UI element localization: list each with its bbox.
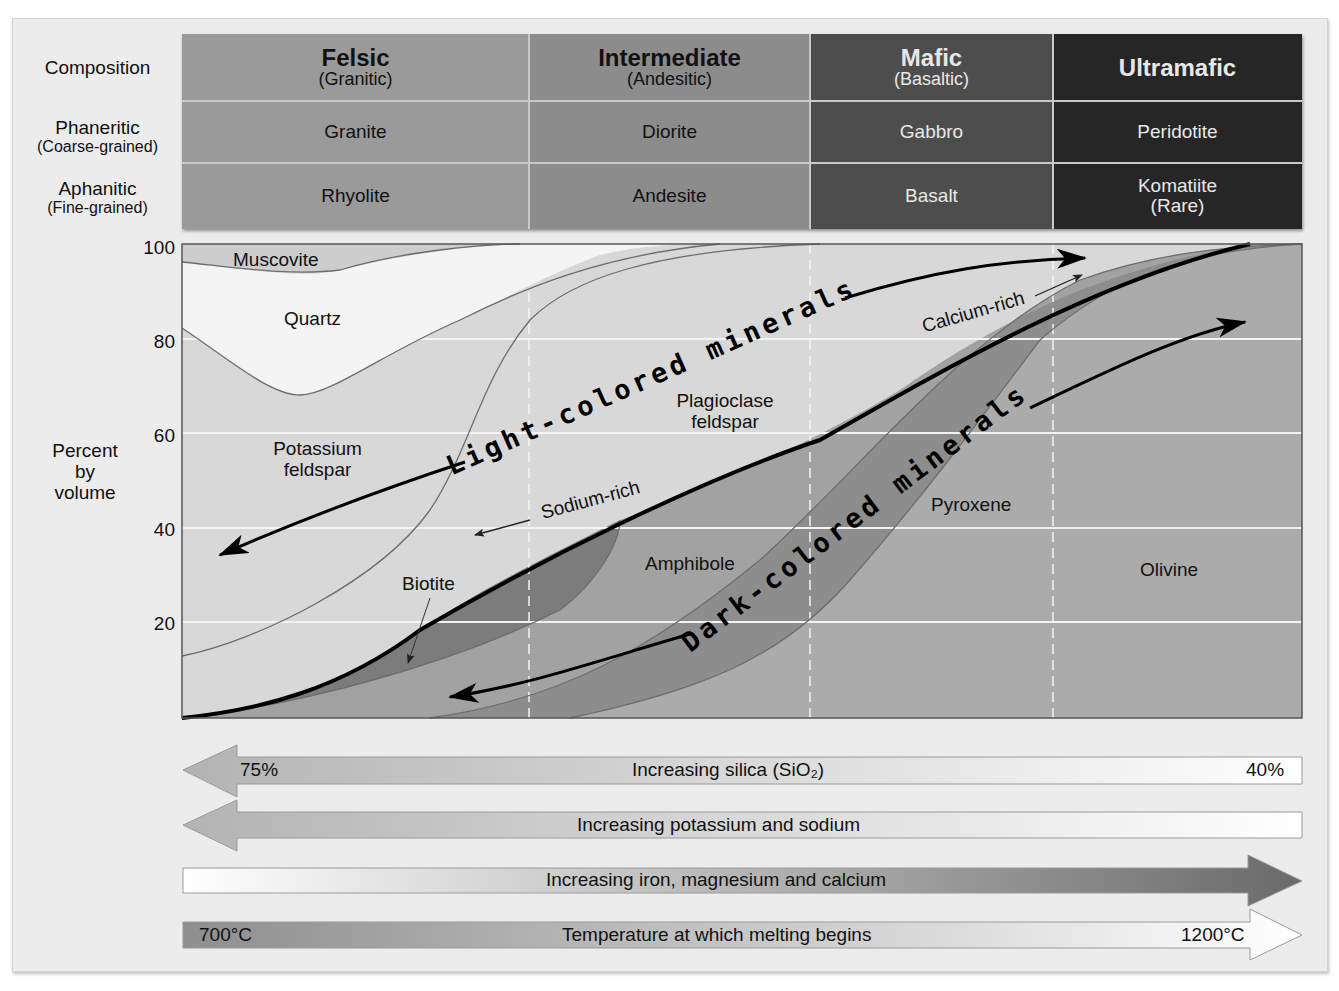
temperature-right-value: 1200°C	[1181, 924, 1245, 946]
label-amphibole: Amphibole	[645, 553, 735, 574]
tick-label: 100	[143, 237, 175, 258]
mineral-name: Amphibole	[645, 553, 735, 574]
bar-value: 1200°C	[1181, 924, 1245, 945]
label-quartz: Quartz	[284, 308, 341, 329]
y-tick-80: 80	[135, 331, 175, 353]
label-potassium-feldspar: Potassium feldspar	[255, 438, 380, 480]
y-axis-label-line: Percent	[30, 440, 140, 461]
y-tick-40: 40	[135, 519, 175, 541]
tick-label: 20	[154, 613, 175, 634]
temperature-left-value: 700°C	[199, 924, 252, 946]
iron-magnesium-calcium-label: Increasing iron, magnesium and calcium	[546, 869, 886, 891]
silica-right-value: 40%	[1246, 759, 1284, 781]
potassium-sodium-label: Increasing potassium and sodium	[577, 814, 860, 836]
mineral-name: Muscovite	[233, 249, 319, 270]
mineral-name: Biotite	[402, 573, 455, 594]
mineral-name: feldspar	[665, 411, 785, 432]
bar-label: Increasing potassium and sodium	[577, 814, 860, 835]
tick-label: 40	[154, 519, 175, 540]
mineral-name: Plagioclase	[665, 390, 785, 411]
mineral-name: Potassium	[255, 438, 380, 459]
tick-label: 60	[154, 425, 175, 446]
bar-value: 700°C	[199, 924, 252, 945]
y-axis-label: Percent by volume	[30, 440, 140, 503]
mineral-name: feldspar	[255, 459, 380, 480]
y-tick-20: 20	[135, 613, 175, 635]
bar-label: Increasing silica (SiO₂)	[632, 759, 824, 780]
y-axis-label-line: by	[30, 461, 140, 482]
mineral-name: Olivine	[1140, 559, 1198, 580]
y-tick-60: 60	[135, 425, 175, 447]
label-muscovite: Muscovite	[233, 249, 319, 270]
label-plagioclase-feldspar: Plagioclase feldspar	[665, 390, 785, 432]
y-tick-100: 100	[135, 237, 175, 259]
bar-label: Temperature at which melting begins	[562, 924, 871, 945]
bar-value: 75%	[240, 759, 278, 780]
tick-label: 80	[154, 331, 175, 352]
temperature-label: Temperature at which melting begins	[562, 924, 871, 946]
mineral-name: Pyroxene	[931, 494, 1011, 515]
bar-value: 40%	[1246, 759, 1284, 780]
label-olivine: Olivine	[1140, 559, 1198, 580]
silica-left-value: 75%	[240, 759, 278, 781]
y-axis-label-line: volume	[30, 482, 140, 503]
mineral-name: Quartz	[284, 308, 341, 329]
mineral-composition-chart: Light-colored minerals Dark-colored mine…	[0, 0, 1339, 991]
silica-label: Increasing silica (SiO₂)	[632, 759, 824, 781]
label-pyroxene: Pyroxene	[931, 494, 1011, 515]
label-biotite: Biotite	[402, 573, 455, 594]
bar-label: Increasing iron, magnesium and calcium	[546, 869, 886, 890]
